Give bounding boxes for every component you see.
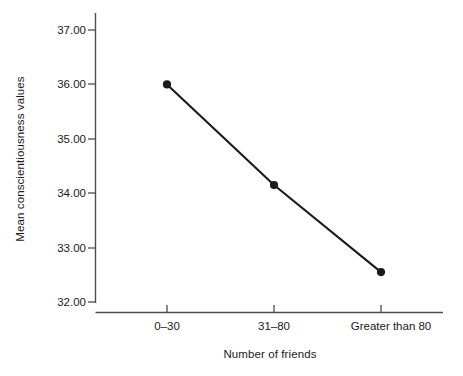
data-line [167,84,381,272]
data-point [163,80,171,88]
data-markers [163,80,385,276]
chart-figure: Mean conscientiousness values 37.00 36.0… [0,0,463,376]
x-tick-label: Greater than 80 [351,320,432,332]
x-tick-label: 0–30 [154,320,180,332]
data-point [377,268,385,276]
x-tick-label: 31–80 [258,320,290,332]
data-point [270,181,278,189]
x-axis-title: Number of friends [95,348,445,360]
